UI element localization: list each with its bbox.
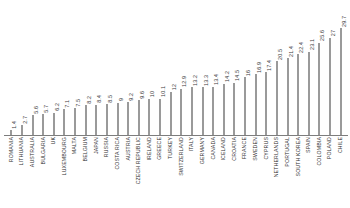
bar-slot: 6.2 bbox=[49, 0, 60, 135]
bar bbox=[287, 58, 289, 135]
bar bbox=[42, 114, 44, 135]
bar bbox=[148, 99, 150, 135]
category-label-slot: NETHERLANDS bbox=[272, 137, 283, 208]
category-label: SWITZERLAND bbox=[179, 137, 184, 176]
bar-slot: 7.1 bbox=[59, 0, 70, 135]
bar bbox=[255, 74, 257, 135]
category-label: IRELAND bbox=[147, 137, 152, 161]
bar-slot: 5.6 bbox=[27, 0, 38, 135]
bar bbox=[170, 92, 172, 135]
category-label: NETHERLANDS bbox=[274, 137, 279, 177]
category-label: LITHUANIA bbox=[19, 137, 24, 165]
category-label: POLAND bbox=[327, 137, 332, 159]
bar-slot: 27 bbox=[325, 0, 336, 135]
category-label-slot: AUSTRALIA bbox=[27, 137, 38, 208]
bar bbox=[202, 87, 204, 135]
bar-slot: 22.4 bbox=[293, 0, 304, 135]
bar-slot: 8.4 bbox=[91, 0, 102, 135]
category-label-slot: SWITZERLAND bbox=[176, 137, 187, 208]
category-label-slot: CZECH REPUBLIC bbox=[134, 137, 145, 208]
bar-slot: 23.1 bbox=[304, 0, 315, 135]
bar bbox=[308, 52, 310, 135]
category-label-slot: ICELAND bbox=[219, 137, 230, 208]
category-label: TURKEY bbox=[168, 137, 173, 159]
category-label: RUSSIA bbox=[104, 137, 109, 157]
bar bbox=[340, 28, 342, 135]
category-label-slot: GERMANY bbox=[197, 137, 208, 208]
bar-slot: 2.7 bbox=[17, 0, 28, 135]
bar-slot: 25.6 bbox=[314, 0, 325, 135]
plot-area: 1.42.75.65.76.27.17.58.28.48.599.29.6101… bbox=[6, 0, 346, 135]
category-label-slot: COSTA RICA bbox=[112, 137, 123, 208]
category-label-slot: POLAND bbox=[325, 137, 336, 208]
bar-slot: 12 bbox=[165, 0, 176, 135]
category-label-slot: TURKEY bbox=[165, 137, 176, 208]
category-label-slot: CHILE bbox=[335, 137, 346, 208]
category-label-slot: IRELAND bbox=[144, 137, 155, 208]
bar-slot: 13.3 bbox=[197, 0, 208, 135]
category-label: SWEDEN bbox=[253, 137, 258, 161]
bar-slot: 12.9 bbox=[176, 0, 187, 135]
category-label-slot: LUXEMBOURG bbox=[59, 137, 70, 208]
category-label: ITALY bbox=[189, 137, 194, 151]
bar bbox=[212, 87, 214, 135]
category-label: BULGARIA bbox=[41, 137, 46, 164]
category-label-slot: MALTA bbox=[70, 137, 81, 208]
bar bbox=[32, 115, 34, 135]
bar bbox=[318, 43, 320, 135]
category-label: MALTA bbox=[72, 137, 77, 154]
category-label-slot: LITHUANIA bbox=[17, 137, 28, 208]
category-label-slot: GREECE bbox=[155, 137, 166, 208]
bar-slot: 1.4 bbox=[6, 0, 17, 135]
bar bbox=[85, 105, 87, 135]
bar-slot: 13.4 bbox=[208, 0, 219, 135]
category-label: GREECE bbox=[157, 137, 162, 160]
category-label-slot: CANADA bbox=[208, 137, 219, 208]
bar-slot: 21.4 bbox=[282, 0, 293, 135]
category-label-slot: SWEDEN bbox=[250, 137, 261, 208]
category-label: SOUTH KOREA bbox=[296, 137, 301, 176]
bar bbox=[244, 77, 246, 135]
bar bbox=[63, 109, 65, 135]
bar bbox=[95, 105, 97, 135]
category-label: FRANCE bbox=[242, 137, 247, 159]
bar-slot: 14.5 bbox=[229, 0, 240, 135]
category-label: ICELAND bbox=[221, 137, 226, 161]
bar bbox=[265, 72, 267, 135]
bar-slot: 16.9 bbox=[250, 0, 261, 135]
category-label: AUSTRALIA bbox=[30, 137, 35, 167]
bar bbox=[233, 83, 235, 135]
bar bbox=[276, 61, 278, 135]
category-label: AUSTRIA bbox=[126, 137, 131, 161]
bar-slot: 9.2 bbox=[123, 0, 134, 135]
category-label-slot: PORTUGAL bbox=[282, 137, 293, 208]
bar-slot: 14.2 bbox=[219, 0, 230, 135]
bar bbox=[127, 102, 129, 135]
category-label-slot: CROATIA bbox=[229, 137, 240, 208]
category-label: LUXEMBOURG bbox=[62, 137, 67, 175]
bar bbox=[223, 84, 225, 135]
bar-slot: 8.5 bbox=[102, 0, 113, 135]
bar bbox=[74, 108, 76, 135]
category-label: JAPAN bbox=[94, 137, 99, 154]
category-label-slot: BELGIUM bbox=[80, 137, 91, 208]
bar bbox=[138, 100, 140, 135]
bar bbox=[53, 113, 55, 135]
category-label: GERMANY bbox=[200, 137, 205, 164]
bar-slot: 9.6 bbox=[134, 0, 145, 135]
bar-slot: 20.5 bbox=[272, 0, 283, 135]
bar bbox=[180, 89, 182, 135]
bar-slot: 10.1 bbox=[155, 0, 166, 135]
bar-slot: 9 bbox=[112, 0, 123, 135]
bar-slot: 10 bbox=[144, 0, 155, 135]
category-label: CANADA bbox=[211, 137, 216, 160]
bar bbox=[329, 38, 331, 135]
category-label-slot: FRANCE bbox=[240, 137, 251, 208]
category-label-slot: RUSSIA bbox=[102, 137, 113, 208]
category-label-slot: BULGARIA bbox=[38, 137, 49, 208]
category-axis-labels: ROMANIALITHUANIAAUSTRALIABULGARIAUKLUXEM… bbox=[6, 137, 346, 208]
bar-slot: 29.7 bbox=[335, 0, 346, 135]
bar-chart: 1.42.75.65.76.27.17.58.28.48.599.29.6101… bbox=[0, 0, 350, 208]
category-label-slot: JAPAN bbox=[91, 137, 102, 208]
category-label-slot: ROMANIA bbox=[6, 137, 17, 208]
